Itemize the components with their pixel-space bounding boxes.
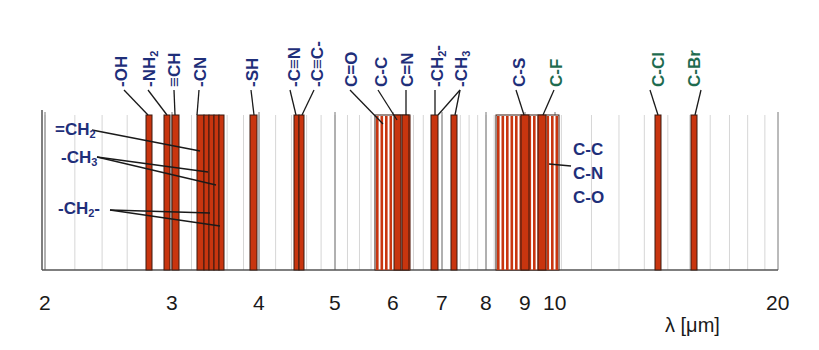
tick-label: 5: [329, 291, 341, 315]
axis-title: λ [μm]: [665, 314, 720, 337]
leader-line: [124, 90, 148, 115]
leader-line: [197, 90, 199, 115]
stripe: [515, 116, 518, 270]
group-label: -C≡C-: [308, 41, 328, 87]
stripe: [556, 116, 559, 270]
leader-line: [174, 90, 175, 115]
ir-absorption-diagram: -OH-NH2≡CH-CN-SH-C≡N-C≡C-C=OC-CC=N-CH2--…: [0, 0, 819, 350]
side-group-label: -CH2-: [58, 199, 100, 219]
absorption-bar: [219, 115, 224, 270]
stripe: [376, 116, 379, 270]
stripe: [533, 116, 536, 270]
absorption-bar: [204, 115, 209, 270]
group-label: -CN: [191, 57, 211, 87]
group-label: -NH2: [140, 51, 160, 87]
group-label: C-S: [510, 58, 530, 87]
absorption-bar: [294, 115, 299, 270]
group-label: -OH: [112, 56, 132, 87]
stripe: [506, 116, 509, 270]
tick-label: 3: [166, 291, 178, 315]
stripe: [390, 116, 393, 270]
stripe: [547, 116, 550, 270]
group-label: ≡CH: [165, 53, 185, 87]
side-group-label: C-C: [573, 140, 603, 160]
tick-label: 9: [519, 291, 531, 315]
absorption-bar: [209, 115, 214, 270]
stripe: [502, 116, 505, 270]
leader-line: [438, 90, 460, 115]
tick-label: 10: [543, 291, 566, 315]
group-label: C-C: [372, 57, 392, 87]
absorption-bar: [164, 115, 170, 270]
tick-label: 8: [480, 291, 492, 315]
leader-line: [350, 90, 383, 124]
stripe: [511, 116, 514, 270]
group-label: C=N: [398, 53, 418, 87]
absorption-bar: [538, 115, 546, 270]
absorption-bar: [431, 115, 438, 270]
absorption-bar: [521, 115, 529, 270]
absorption-bar: [250, 115, 257, 270]
stripe: [385, 116, 388, 270]
leader-line: [650, 90, 658, 115]
absorption-bar: [146, 115, 152, 270]
leader-line: [251, 90, 254, 115]
absorption-bar: [197, 115, 204, 270]
leader-line: [543, 90, 554, 115]
leader-line: [290, 90, 296, 115]
group-label: -CH2-: [428, 45, 448, 87]
absorption-bar: [655, 115, 661, 270]
group-label: C-Br: [685, 50, 705, 87]
absorption-bar: [691, 115, 697, 270]
tick-label: 4: [253, 291, 265, 315]
leader-line: [695, 90, 701, 115]
absorption-bar: [451, 115, 457, 270]
tick-label: 20: [766, 291, 789, 315]
group-label: -SH: [243, 58, 263, 87]
leader-line: [516, 90, 524, 115]
side-group-label: -CH3: [61, 148, 97, 168]
leader-line: [302, 90, 314, 115]
tick-label: 6: [387, 291, 399, 315]
side-group-label: =CH2: [55, 120, 96, 140]
absorption-bar: [214, 115, 219, 270]
absorption-bar: [402, 115, 409, 270]
group-label: -C≡N: [285, 47, 305, 87]
leader-line: [148, 90, 167, 115]
group-label: -CH3: [452, 51, 472, 87]
stripe: [381, 116, 384, 270]
tick-label: 2: [39, 291, 51, 315]
group-label: C=O: [342, 52, 362, 87]
tick-label: 7: [436, 291, 448, 315]
side-group-label: C-O: [573, 188, 604, 208]
side-group-label: C-N: [573, 164, 603, 184]
absorption-bar: [172, 115, 179, 270]
absorption-bar: [299, 115, 304, 270]
absorption-bar: [394, 115, 401, 270]
stripe: [551, 116, 554, 270]
group-label: C-F: [547, 59, 567, 87]
group-label: C-Cl: [649, 52, 669, 87]
stripe: [497, 116, 500, 270]
